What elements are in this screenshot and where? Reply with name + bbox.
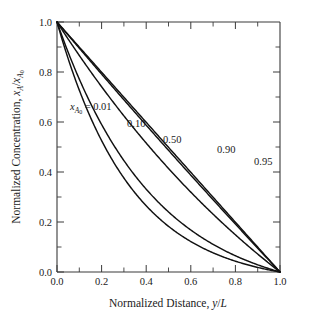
y-tick-label: 0.8	[39, 67, 52, 78]
ylabel-text: Normalized Concentration,	[10, 96, 23, 224]
chart-figure: 0.0 0.2 0.4 0.6 0.8 1.0 0.0 0.2 0.4 0.6 …	[0, 0, 314, 320]
xlabel-var-l: L	[220, 297, 227, 309]
y-tick-label: 1.0	[39, 17, 52, 28]
x-tick-label: 0.2	[95, 276, 108, 287]
annot-sub-zero: 0	[79, 109, 82, 115]
y-tick-label: 0.6	[39, 117, 52, 128]
x-tick-label: 0.4	[140, 276, 154, 287]
curve-label-095: 0.95	[254, 156, 272, 167]
curve-label-050: 0.50	[163, 134, 181, 145]
curve-label-090: 0.90	[217, 144, 235, 155]
xlabel-text: Normalized Distance,	[109, 297, 212, 310]
y-tick-label: 0.2	[39, 217, 52, 228]
x-tick-label: 1.0	[273, 276, 286, 287]
annot-equals-value: = 0.01	[85, 101, 112, 112]
x-tick-label: 0.8	[229, 276, 242, 287]
x-tick-label: 0.6	[184, 276, 197, 287]
x-tick-label: 0.0	[50, 276, 63, 287]
curve-label-010: 0.10	[127, 118, 145, 129]
y-tick-label: 0.4	[39, 167, 53, 178]
y-tick-label: 0.0	[39, 267, 52, 278]
ylabel-subsub2: 0	[19, 70, 25, 73]
x-axis-label: Normalized Distance, y/L	[109, 297, 227, 310]
concentration-profile-chart: 0.0 0.2 0.4 0.6 0.8 1.0 0.0 0.2 0.4 0.6 …	[0, 0, 314, 320]
